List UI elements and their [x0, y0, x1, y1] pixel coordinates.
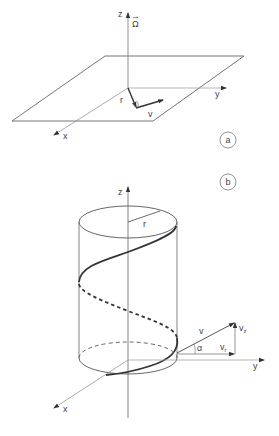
helix-front-lower — [106, 338, 177, 375]
vz-label: vz — [239, 323, 247, 334]
radius-label: r — [143, 219, 146, 229]
x-axis-a — [54, 88, 128, 135]
r-label-a: r — [120, 95, 123, 105]
x-label-a: x — [63, 131, 68, 141]
x-label-b: x — [63, 404, 68, 414]
figure-b: b z r y x v α vr vz — [54, 174, 264, 418]
vr-label: vr — [220, 342, 227, 353]
panel-b-label: b — [225, 177, 230, 187]
alpha-label: α — [197, 343, 202, 353]
y-label-a: y — [215, 89, 220, 99]
z-label-b: z — [118, 187, 123, 197]
v-vector-a — [136, 100, 163, 108]
figure-a: z Ω → y x r v a — [12, 9, 244, 148]
helix-front-upper — [79, 226, 176, 282]
panel-a-label: a — [225, 135, 230, 145]
diagram-canvas: z Ω → y x r v a b z r y x — [0, 0, 279, 436]
alpha-arc — [194, 344, 195, 354]
r-vector-a — [128, 88, 136, 107]
x-axis-b — [54, 360, 128, 408]
y-label-b: y — [253, 361, 258, 371]
omega-arrow-icon: → — [131, 11, 140, 21]
v-label-a: v — [148, 109, 153, 119]
v-label-b: v — [199, 326, 204, 336]
z-label-a: z — [118, 9, 123, 19]
